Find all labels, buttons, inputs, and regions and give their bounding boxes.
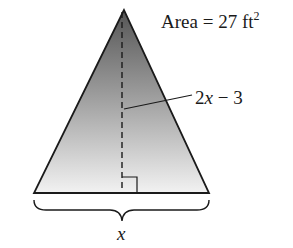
triangle-figure: 2x − 3 Area = 27 ft2 x [0,0,293,248]
height-label: 2x − 3 [195,87,243,108]
area-label: Area = 27 ft2 [161,9,260,32]
triangle-diagram: 2x − 3 Area = 27 ft2 x [0,0,293,248]
base-brace [34,200,209,221]
base-label: x [116,223,126,244]
